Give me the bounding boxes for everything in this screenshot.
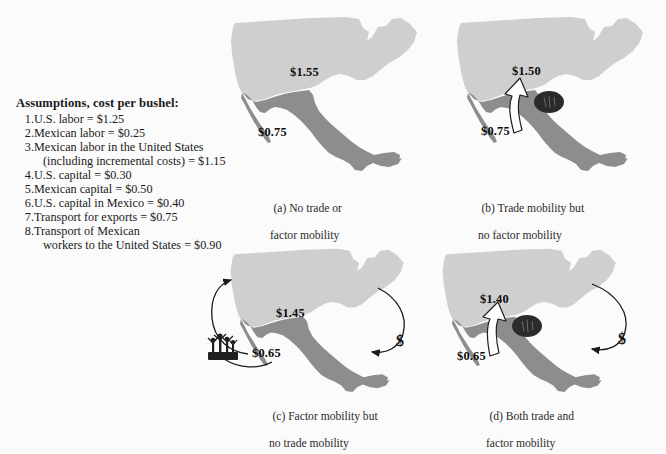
assumption-item: 5.Mexican capital = $0.50 bbox=[14, 183, 226, 197]
assumptions-heading: Assumptions, cost per bushel: bbox=[16, 96, 226, 111]
assumption-text: Mexican labor in the United States bbox=[34, 140, 204, 154]
panel-c-factor-mobility: $1.45 $0.65 $ (c) Factor mobility but no… bbox=[200, 252, 432, 444]
assumption-number: 4. bbox=[18, 169, 34, 183]
assumption-number: 1. bbox=[18, 113, 34, 127]
united-states-shape bbox=[231, 249, 404, 327]
us-price-label-d: $1.40 bbox=[480, 292, 509, 307]
panel-c-caption-line1: (c) Factor mobility but bbox=[272, 410, 377, 423]
assumption-number: 8. bbox=[18, 225, 34, 239]
panel-a-no-trade-no-factor: $1.55 $0.75 (a) No trade or factor mobil… bbox=[226, 14, 422, 232]
assumptions-block: Assumptions, cost per bushel: 1.U.S. lab… bbox=[14, 96, 226, 253]
panel-d-both-trade-and-factor: $1.40 $0.65 $ (d) Both trade and factor … bbox=[432, 252, 666, 444]
assumption-item: 4.U.S. capital = $0.30 bbox=[14, 169, 226, 183]
mexico-price-label-b: $0.75 bbox=[481, 124, 510, 139]
panel-b-caption-line2: no factor mobility bbox=[464, 229, 584, 242]
assumption-item: 2.Mexican labor = $0.25 bbox=[14, 127, 226, 141]
assumption-text-cont: (including incremental costs) = $1.15 bbox=[34, 155, 226, 169]
mexico-price-label-d: $0.65 bbox=[457, 349, 486, 364]
panel-c-caption-line2: no trade mobility bbox=[255, 437, 378, 450]
panel-d-caption: (d) Both trade and factor mobility bbox=[472, 397, 574, 454]
assumption-text-cont: workers to the United States = $0.90 bbox=[34, 239, 226, 253]
map-north-america-d bbox=[432, 252, 666, 412]
panel-b-caption-line1: (b) Trade mobility but bbox=[481, 202, 584, 215]
assumption-number: 2. bbox=[18, 127, 34, 141]
mexico-price-label-a: $0.75 bbox=[258, 125, 287, 140]
assumption-text: U.S. capital in Mexico = $0.40 bbox=[34, 196, 184, 210]
assumption-number: 3. bbox=[18, 141, 34, 155]
assumption-text: U.S. labor = $1.25 bbox=[34, 112, 124, 126]
map-north-america-b bbox=[444, 14, 656, 186]
panel-c-caption: (c) Factor mobility but no trade mobilit… bbox=[255, 397, 378, 454]
assumption-text: Transport of Mexican bbox=[34, 224, 140, 238]
assumptions-list: 1.U.S. labor = $1.25 2.Mexican labor = $… bbox=[14, 113, 226, 252]
mexico-price-label-c: $0.65 bbox=[252, 346, 281, 361]
panel-d-caption-line2: factor mobility bbox=[472, 437, 574, 450]
assumption-number: 6. bbox=[18, 197, 34, 211]
assumption-item: 6.U.S. capital in Mexico = $0.40 bbox=[14, 197, 226, 211]
assumption-text: Mexican capital = $0.50 bbox=[34, 182, 153, 196]
panel-a-caption-line1: (a) No trade or bbox=[273, 202, 342, 215]
us-price-label-c: $1.45 bbox=[276, 306, 305, 321]
map-north-america-a bbox=[226, 14, 422, 186]
dollar-symbol-d: $ bbox=[618, 330, 626, 348]
panel-b-trade-mobility: $1.50 $0.75 (b) Trade mobility but no fa… bbox=[444, 14, 656, 232]
workers-icon bbox=[208, 334, 238, 361]
assumption-item: 3.Mexican labor in the United States (in… bbox=[14, 141, 226, 168]
us-price-label-b: $1.50 bbox=[512, 64, 541, 79]
assumption-item: 7.Transport for exports = $0.75 bbox=[14, 211, 226, 225]
assumption-text: Mexican labor = $0.25 bbox=[34, 126, 145, 140]
assumption-text: U.S. capital = $0.30 bbox=[34, 168, 132, 182]
united-states-shape bbox=[457, 17, 643, 101]
assumption-number: 5. bbox=[18, 183, 34, 197]
panel-a-caption-line2: factor mobility bbox=[256, 229, 342, 242]
assumption-item: 1.U.S. labor = $1.25 bbox=[14, 113, 226, 127]
assumption-item: 8.Transport of Mexican workers to the Un… bbox=[14, 225, 226, 252]
assumption-text: Transport for exports = $0.75 bbox=[34, 210, 178, 224]
united-states-shape bbox=[231, 17, 417, 101]
dollar-symbol-c: $ bbox=[396, 332, 404, 350]
assumption-number: 7. bbox=[18, 211, 34, 225]
us-price-label-a: $1.55 bbox=[290, 65, 319, 80]
panel-d-caption-line1: (d) Both trade and bbox=[489, 410, 574, 423]
